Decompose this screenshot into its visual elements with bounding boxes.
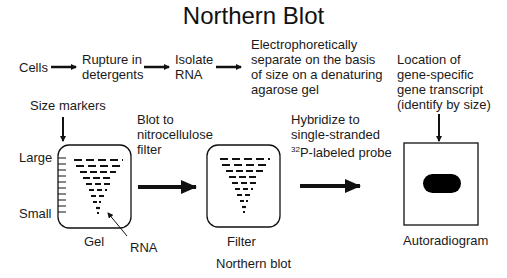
size-marker-ticks: [58, 158, 66, 212]
filter-rna-bands: [220, 159, 270, 212]
gel-box: [58, 145, 131, 228]
diagram-graphics: [0, 0, 507, 278]
hybridized-band: [423, 174, 461, 193]
filter-box: [207, 145, 280, 227]
gel-rna-bands: [74, 160, 123, 213]
rna-pointer-arrow: [108, 213, 127, 236]
